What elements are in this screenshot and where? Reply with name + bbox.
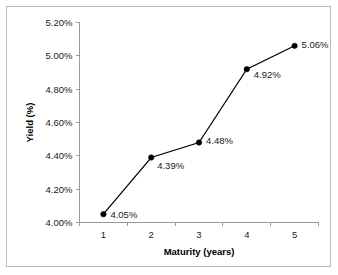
data-point-value-label: 4.92% bbox=[254, 69, 281, 80]
line-chart: 4.00%4.20%4.40%4.60%4.80%5.00%5.20% 1234… bbox=[0, 0, 338, 275]
data-point-marker bbox=[292, 43, 297, 48]
y-axis-tick-label: 4.80% bbox=[46, 84, 73, 95]
y-axis-tick-label: 4.20% bbox=[46, 184, 73, 195]
x-axis-tick-label: 2 bbox=[149, 229, 154, 240]
data-point-marker bbox=[196, 140, 201, 145]
x-axis-title: Maturity (years) bbox=[164, 246, 235, 257]
x-axis-tick-label: 5 bbox=[292, 229, 297, 240]
data-point-marker bbox=[101, 211, 106, 216]
y-axis-title: Yield (%) bbox=[24, 103, 35, 143]
data-point-marker bbox=[244, 66, 249, 71]
data-point-label-group: 4.05%4.39%4.48%4.92%5.06% bbox=[110, 39, 329, 220]
y-axis-tick-label: 4.40% bbox=[46, 150, 73, 161]
y-axis-tick-group bbox=[76, 23, 80, 223]
data-point-value-label: 4.48% bbox=[206, 135, 233, 146]
data-point-value-label: 4.05% bbox=[110, 209, 137, 220]
y-axis-tick-label: 5.20% bbox=[46, 17, 73, 28]
x-axis-tick-label: 1 bbox=[101, 229, 106, 240]
y-axis-tick-label: 4.60% bbox=[46, 117, 73, 128]
x-axis-tick-label: 4 bbox=[244, 229, 249, 240]
x-axis-tick-group bbox=[80, 223, 319, 227]
x-axis-label-group: 12345 bbox=[101, 229, 297, 240]
x-axis-tick-label: 3 bbox=[196, 229, 201, 240]
y-axis-tick-label: 4.00% bbox=[46, 217, 73, 228]
y-axis-label-group: 4.00%4.20%4.40%4.60%4.80%5.00%5.20% bbox=[46, 17, 73, 228]
data-point-value-label: 4.39% bbox=[157, 160, 184, 171]
data-point-marker bbox=[149, 155, 154, 160]
data-point-value-label: 5.06% bbox=[302, 39, 329, 50]
y-axis-tick-label: 5.00% bbox=[46, 50, 73, 61]
